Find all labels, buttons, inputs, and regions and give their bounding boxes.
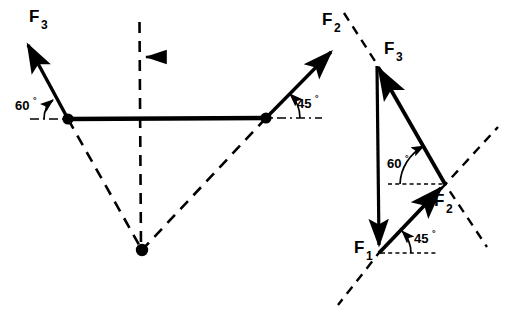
angle-arc-60-right <box>400 146 424 184</box>
right-cable <box>142 118 266 250</box>
dashed-line-upper-right <box>441 127 498 189</box>
angle-degree-sign-45-left: ° <box>315 93 319 103</box>
angle-arc-60-left <box>44 100 53 119</box>
left-space-diagram: F 3 F 2 60 ° 45 ° <box>15 7 341 256</box>
angle-label-60-right: 60 <box>387 156 401 171</box>
f3-sublabel-right: 3 <box>396 50 403 64</box>
f2-label-left: F <box>322 10 332 29</box>
left-joint <box>62 113 73 124</box>
force-diagram-figure: F 3 F 2 60 ° 45 ° F 3 F 2 F 1 <box>0 0 506 317</box>
f1-sublabel-right: 1 <box>366 249 373 263</box>
f2-label-right: F <box>434 191 444 210</box>
f2-sublabel-left: 2 <box>334 21 341 35</box>
dashed-line-lower-left <box>338 249 382 305</box>
f1-vector-right <box>377 66 379 245</box>
vertical-centerline <box>140 22 142 250</box>
angle-degree-sign-60-left: ° <box>33 95 37 105</box>
right-joint <box>260 112 271 123</box>
angle-degree-sign-45-right: ° <box>432 228 436 238</box>
right-force-triangle-diagram: F 3 F 2 F 1 60 ° 45 ° <box>338 13 498 305</box>
angle-label-45-left: 45 <box>297 96 311 111</box>
angle-label-60-left: 60 <box>15 98 29 113</box>
horizontal-member <box>68 118 266 119</box>
f3-label-left: F <box>29 7 39 26</box>
f3-label-right: F <box>384 39 394 58</box>
f3-sublabel-left: 3 <box>41 18 48 32</box>
angle-arc-45-right <box>402 231 411 253</box>
angle-degree-sign-60-right: ° <box>405 153 409 163</box>
diagram-canvas: F 3 F 2 60 ° 45 ° F 3 F 2 F 1 <box>0 0 506 317</box>
apex-load-point <box>136 244 148 256</box>
angle-label-45-right: 45 <box>414 231 428 246</box>
f2-sublabel-right: 2 <box>446 202 453 216</box>
f3-vector-left <box>28 45 68 119</box>
f1-label-right: F <box>354 238 364 257</box>
left-cable <box>68 119 142 250</box>
